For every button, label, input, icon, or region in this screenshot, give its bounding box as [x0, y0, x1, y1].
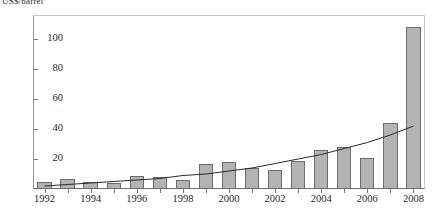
x-axis-tick: [252, 189, 253, 193]
chart-container: US$/barrel 20406080100 19921994199619982…: [0, 0, 437, 219]
x-tick-label: 2008: [393, 193, 433, 204]
x-axis-tick: [206, 189, 207, 193]
x-tick-label: 2000: [209, 193, 249, 204]
x-axis-tick: [298, 189, 299, 193]
x-tick-label: 2004: [301, 193, 341, 204]
x-axis-tick: [344, 189, 345, 193]
x-tick-label: 2002: [255, 193, 295, 204]
x-axis-tick: [114, 189, 115, 193]
x-axis-tick: [390, 189, 391, 193]
x-tick-label: 2006: [347, 193, 387, 204]
x-axis-tick: [68, 189, 69, 193]
trend-line: [33, 15, 425, 189]
x-tick-label: 1994: [71, 193, 111, 204]
x-tick-label: 1998: [163, 193, 203, 204]
y-axis-title: US$/barrel: [2, 0, 44, 6]
x-tick-label: 1996: [117, 193, 157, 204]
x-tick-label: 1992: [25, 193, 65, 204]
x-axis-tick: [160, 189, 161, 193]
